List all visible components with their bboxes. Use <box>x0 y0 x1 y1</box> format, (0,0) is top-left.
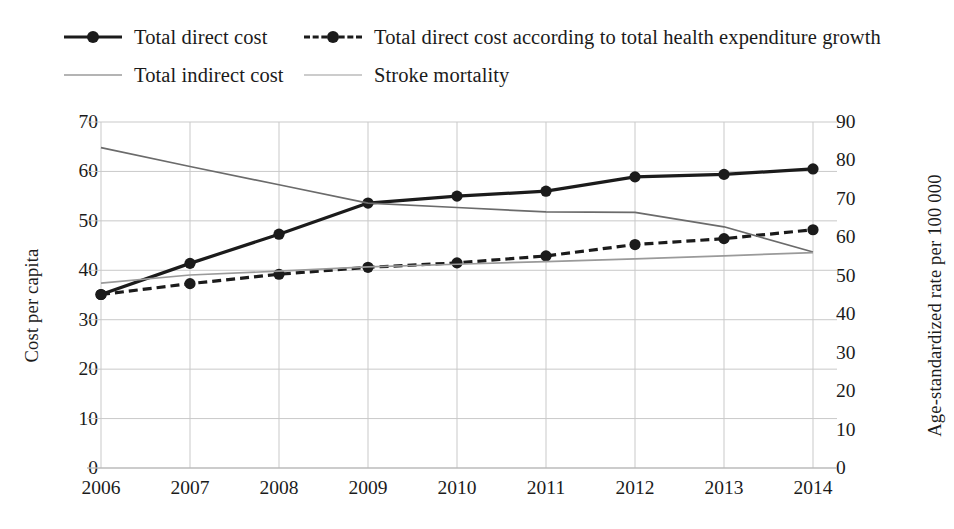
legend-key-line <box>64 75 122 76</box>
data-point <box>629 239 640 250</box>
legend-item-total-indirect-cost: Total indirect cost <box>62 65 302 85</box>
data-point <box>807 224 818 235</box>
legend-label: Total indirect cost <box>134 65 284 85</box>
data-point <box>629 171 640 182</box>
data-point <box>451 257 462 268</box>
y-axis-right-tick-label: 10 <box>836 420 856 440</box>
legend-key-line-icon <box>302 66 364 84</box>
chart-canvas <box>101 122 813 468</box>
x-axis-tick-label: 2006 <box>82 478 121 498</box>
x-axis-ticks: 200620072008200920102011201220132014 <box>0 478 954 508</box>
data-point <box>451 191 462 202</box>
y-axis-right-tick-label: 0 <box>836 458 846 478</box>
data-point <box>718 233 729 244</box>
y-axis-right-tick-label: 80 <box>836 151 856 171</box>
legend-label: Total direct cost <box>134 27 267 47</box>
data-point <box>273 229 284 240</box>
chart-figure: Total direct cost Total direct cost acco… <box>0 0 954 529</box>
data-point <box>95 289 106 300</box>
legend-item-stroke-mortality: Stroke mortality <box>302 65 509 85</box>
x-axis-tick-label: 2007 <box>171 478 210 498</box>
x-axis-tick-label: 2014 <box>794 478 833 498</box>
legend-key-line-marker-icon <box>62 28 124 46</box>
y-axis-right-tick-label: 50 <box>836 266 856 286</box>
legend-item-total-direct-cost-growth: Total direct cost according to total hea… <box>302 27 881 47</box>
y-axis-right-tick-label: 60 <box>836 228 856 248</box>
legend-key-line <box>304 75 362 76</box>
legend-row-1: Total direct cost Total direct cost acco… <box>62 18 922 56</box>
data-point <box>540 186 551 197</box>
legend-label: Total direct cost according to total hea… <box>374 27 881 47</box>
plot-area <box>101 122 813 468</box>
legend-key-line-icon <box>62 66 124 84</box>
y-axis-right-tick-label: 30 <box>836 343 856 363</box>
y-axis-left-title: Cost per capita <box>22 196 43 416</box>
legend-key-marker <box>87 31 99 43</box>
x-axis-tick-label: 2012 <box>616 478 655 498</box>
x-axis-tick-label: 2010 <box>438 478 477 498</box>
x-axis-tick-label: 2013 <box>705 478 744 498</box>
y-axis-right-tick-label: 40 <box>836 304 856 324</box>
y-axis-right-tick-label: 90 <box>836 112 856 132</box>
y-axis-right-tick-label: 20 <box>836 381 856 401</box>
legend-row-2: Total indirect cost Stroke mortality <box>62 56 922 94</box>
legend-key-marker <box>327 31 339 43</box>
x-axis-tick-label: 2011 <box>527 478 565 498</box>
chart-legend: Total direct cost Total direct cost acco… <box>62 18 922 94</box>
y-axis-right-title: Age-standardized rate per 100 000 <box>925 141 946 471</box>
data-point <box>540 250 551 261</box>
data-point <box>718 169 729 180</box>
legend-label: Stroke mortality <box>374 65 509 85</box>
data-point <box>807 163 818 174</box>
x-axis-tick-label: 2009 <box>349 478 388 498</box>
x-axis-tick-label: 2008 <box>260 478 299 498</box>
legend-item-total-direct-cost: Total direct cost <box>62 27 302 47</box>
legend-key-dashed-marker-icon <box>302 28 364 46</box>
y-axis-right-tick-label: 70 <box>836 189 856 209</box>
data-point <box>184 278 195 289</box>
data-point <box>184 258 195 269</box>
